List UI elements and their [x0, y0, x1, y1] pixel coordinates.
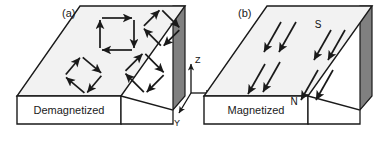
south-pole-label: S: [315, 19, 322, 30]
panel-b-label: (b): [238, 7, 251, 19]
slab-a-top-face: [17, 6, 185, 96]
panel-a: (a) Demagnetized: [17, 6, 185, 124]
axis-z-label: Z: [195, 55, 201, 65]
panel-b: (b) Magnetized S N: [204, 6, 372, 124]
slab-a-side-face: [173, 6, 185, 110]
panel-a-label: (a): [62, 7, 75, 19]
slab-b-front-right-face: [308, 96, 360, 124]
slab-b-top-face: [204, 6, 372, 96]
slab-a-front-right-face: [121, 96, 173, 124]
panel-b-caption: Magnetized: [228, 104, 285, 116]
panel-a-caption: Demagnetized: [34, 104, 105, 116]
slab-b-side-face: [360, 6, 372, 110]
axis-y-label: Y: [174, 118, 180, 128]
magnetization-figure: (a) Demagnetized: [0, 0, 388, 142]
north-pole-label: N: [290, 96, 297, 107]
